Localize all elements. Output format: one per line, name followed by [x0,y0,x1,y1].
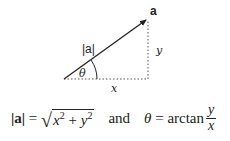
y-label: y [155,44,163,57]
fraction-denominator: x [206,119,216,134]
angle-arc [91,60,97,79]
angle-label: θ [79,67,86,80]
sqrt-argument: x2 + y2 [52,109,94,129]
and-text: and [108,110,130,127]
fraction-numerator: y [206,103,216,119]
formula: |a| = √ x2 + y2 and θ = arctan y x [11,100,216,136]
magnitude-label: |a| [82,42,95,56]
magnitude-lhs: |a| [11,110,25,127]
vector-arrow [64,20,146,79]
equals-sign-2: = [151,110,167,127]
x-label: x [111,82,118,95]
sqrt-exp-2: 2 [87,110,92,121]
sqrt-x: x [53,112,60,128]
radical-icon: √ [41,110,52,130]
vector-diagram: a |a| θ x y [0,0,230,100]
vector-label: a [150,4,157,18]
theta-symbol: θ [144,110,151,127]
plus-sign: + [65,112,81,128]
square-root: √ x2 + y2 [41,108,94,128]
arctan-text: arctan [167,110,204,127]
fraction: y x [206,103,216,133]
equals-sign: = [25,110,41,127]
